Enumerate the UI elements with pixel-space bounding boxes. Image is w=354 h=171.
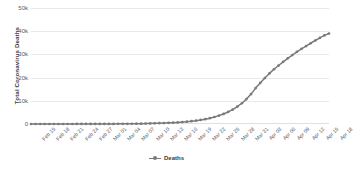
data-point-marker (89, 123, 92, 126)
data-point-marker (291, 54, 294, 57)
data-point-marker (53, 123, 56, 126)
series-line (31, 34, 329, 124)
data-point-marker (314, 39, 317, 42)
data-point-marker (34, 123, 37, 126)
x-tick-label: Apr 15 (324, 126, 339, 141)
data-point-marker (309, 42, 312, 45)
x-tick-label: Apr 06 (282, 126, 297, 141)
data-point-marker (296, 51, 299, 54)
data-point-marker (43, 123, 46, 126)
data-point-marker (163, 122, 166, 125)
data-point-marker (213, 116, 216, 119)
x-tick-label: Mar 10 (154, 126, 170, 142)
x-tick-label: Apr 03 (268, 126, 283, 141)
data-point-marker (98, 123, 101, 126)
x-tick-label: Mar 04 (126, 126, 142, 142)
data-point-marker (186, 120, 189, 123)
y-tick-label: 30k (18, 51, 28, 57)
data-point-marker (318, 37, 321, 40)
data-point-marker (190, 120, 193, 123)
x-tick-label: Feb 21 (69, 126, 85, 142)
x-tick-label: Feb 18 (55, 126, 71, 142)
y-tick-label: 10k (18, 98, 28, 104)
data-point-marker (300, 47, 303, 50)
data-point-marker (140, 122, 143, 125)
series-deaths (31, 8, 329, 124)
data-point-marker (103, 123, 106, 126)
data-point-marker (126, 122, 129, 125)
plot-area (31, 8, 329, 124)
x-tick-label: Mar 07 (140, 126, 156, 142)
data-point-marker (172, 121, 175, 124)
x-tick-label: Mar 16 (183, 126, 199, 142)
data-point-marker (323, 34, 326, 37)
data-point-marker (176, 121, 179, 124)
legend-entry-label: Deaths (164, 155, 184, 161)
data-point-marker (263, 77, 266, 80)
data-point-marker (167, 122, 170, 125)
data-point-marker (30, 123, 33, 126)
x-tick-label: Mar 01 (112, 126, 128, 142)
data-point-marker (80, 123, 83, 126)
y-tick-label: 20k (18, 75, 28, 81)
data-point-marker (71, 123, 74, 126)
x-tick-label: Feb 15 (41, 126, 57, 142)
data-point-marker (131, 122, 134, 125)
x-tick-label: Mar 31 (254, 126, 270, 142)
data-point-marker (231, 108, 234, 111)
data-point-marker (250, 93, 253, 96)
data-point-marker (94, 123, 97, 126)
data-point-marker (76, 123, 79, 126)
x-tick-label: Mar 13 (168, 126, 184, 142)
data-point-marker (153, 122, 156, 125)
data-point-marker (135, 122, 138, 125)
data-point-marker (117, 123, 120, 126)
data-point-marker (195, 119, 198, 122)
data-point-marker (222, 113, 225, 116)
data-point-marker (282, 60, 285, 63)
data-point-marker (144, 122, 147, 125)
data-point-marker (204, 118, 207, 121)
data-point-marker (218, 114, 221, 117)
data-point-marker (286, 57, 289, 60)
data-point-marker (236, 105, 239, 108)
y-tick-label: 0 (25, 121, 28, 127)
legend-marker-icon (149, 156, 161, 161)
data-point-marker (305, 45, 308, 48)
data-point-marker (57, 123, 60, 126)
data-point-marker (112, 123, 115, 126)
data-point-marker (268, 72, 271, 75)
data-point-marker (259, 82, 262, 85)
data-point-marker (199, 119, 202, 122)
data-point-marker (328, 32, 331, 35)
data-point-marker (85, 123, 88, 126)
x-tick-label: Mar 28 (239, 126, 255, 142)
x-tick-label: Apr 12 (310, 126, 325, 141)
data-point-marker (254, 87, 257, 90)
data-point-marker (245, 98, 248, 101)
data-point-marker (39, 123, 42, 126)
x-tick-label: Mar 22 (211, 126, 227, 142)
data-point-marker (181, 121, 184, 124)
data-point-marker (241, 102, 244, 105)
x-tick-label: Apr 18 (338, 126, 353, 141)
chart-legend: Deaths (0, 155, 333, 161)
x-tick-label: Apr 09 (296, 126, 311, 141)
data-point-marker (227, 111, 230, 114)
data-point-marker (62, 123, 65, 126)
data-point-marker (273, 68, 276, 71)
y-tick-label: 50k (18, 5, 28, 11)
data-point-marker (277, 64, 280, 67)
data-point-marker (149, 122, 152, 125)
x-axis-tick-labels: Feb 15Feb 18Feb 21Feb 24Feb 27Mar 01Mar … (31, 126, 329, 152)
y-axis-tick-labels: 010k20k30k40k50k (0, 0, 30, 171)
x-tick-label: Feb 27 (97, 126, 113, 142)
x-tick-label: Mar 19 (197, 126, 213, 142)
data-point-marker (208, 117, 211, 120)
x-tick-label: Feb 24 (83, 126, 99, 142)
data-point-marker (48, 123, 51, 126)
data-point-marker (66, 123, 69, 126)
data-point-marker (158, 122, 161, 125)
x-tick-label: Mar 25 (225, 126, 241, 142)
